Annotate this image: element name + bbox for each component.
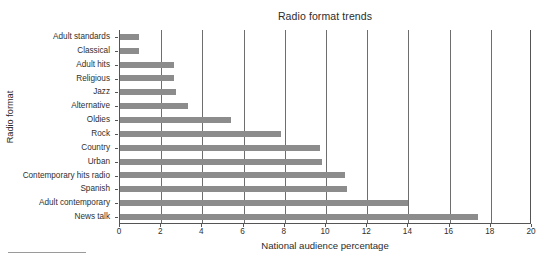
y-tick-mark bbox=[115, 189, 118, 190]
bar-row bbox=[120, 141, 530, 155]
y-tick-label: Classical bbox=[77, 44, 110, 58]
bar-row bbox=[120, 113, 530, 127]
bar bbox=[120, 172, 345, 178]
x-tick-label: 0 bbox=[117, 227, 122, 236]
y-tick-label: Adult hits bbox=[76, 58, 110, 72]
bar-row bbox=[120, 58, 530, 72]
bar-row bbox=[120, 85, 530, 99]
bar-row bbox=[120, 44, 530, 58]
y-tick-mark bbox=[115, 134, 118, 135]
bar-row bbox=[120, 72, 530, 86]
bar bbox=[120, 48, 139, 54]
chart-figure: Radio format trends Radio format Adult s… bbox=[0, 0, 552, 261]
y-tick-mark bbox=[115, 162, 118, 163]
y-tick-mark bbox=[115, 120, 118, 121]
bar-series bbox=[120, 30, 530, 223]
bar bbox=[120, 214, 478, 220]
x-tick-label: 8 bbox=[282, 227, 287, 236]
bar-row bbox=[120, 196, 530, 210]
y-axis-tick-labels: Adult standardsClassicalAdult hitsReligi… bbox=[0, 30, 115, 224]
bar-row bbox=[120, 99, 530, 113]
y-tick-label: Rock bbox=[91, 127, 110, 141]
bar-row bbox=[120, 30, 530, 44]
y-tick-label: Jazz bbox=[93, 85, 110, 99]
x-axis-tick-labels: 02468101214161820 bbox=[119, 224, 531, 240]
bar-row bbox=[120, 210, 530, 224]
y-tick-label: Adult standards bbox=[53, 30, 110, 44]
x-tick-label: 16 bbox=[444, 227, 453, 236]
y-tick-mark bbox=[115, 203, 118, 204]
x-tick-label: 10 bbox=[320, 227, 329, 236]
x-tick-label: 2 bbox=[158, 227, 163, 236]
bar bbox=[120, 159, 322, 165]
bar bbox=[120, 200, 408, 206]
y-tick-label: Alternative bbox=[71, 99, 110, 113]
bar bbox=[120, 89, 176, 95]
bar-row bbox=[120, 169, 530, 183]
y-tick-label: Oldies bbox=[87, 113, 110, 127]
chart-title: Radio format trends bbox=[119, 10, 531, 22]
x-tick-label: 14 bbox=[403, 227, 412, 236]
x-tick-label: 18 bbox=[485, 227, 494, 236]
bar bbox=[120, 103, 188, 109]
x-axis-label: National audience percentage bbox=[119, 240, 531, 251]
y-tick-label: Adult contemporary bbox=[39, 196, 110, 210]
bar bbox=[120, 117, 231, 123]
y-tick-label: Spanish bbox=[80, 182, 110, 196]
plot-area bbox=[119, 30, 531, 224]
bar bbox=[120, 145, 320, 151]
x-tick-label: 6 bbox=[240, 227, 245, 236]
y-tick-mark bbox=[115, 217, 118, 218]
y-tick-mark bbox=[115, 51, 118, 52]
y-tick-mark bbox=[115, 92, 118, 93]
bar bbox=[120, 75, 174, 81]
x-tick-label: 20 bbox=[526, 227, 535, 236]
y-tick-mark bbox=[115, 106, 118, 107]
y-tick-label: Contemporary hits radio bbox=[23, 169, 110, 183]
x-tick-label: 4 bbox=[199, 227, 204, 236]
bar bbox=[120, 62, 174, 68]
y-tick-mark bbox=[115, 176, 118, 177]
bottom-divider bbox=[8, 252, 86, 253]
y-tick-mark bbox=[115, 65, 118, 66]
y-tick-label: Country bbox=[81, 141, 110, 155]
bar bbox=[120, 131, 281, 137]
y-tick-label: News talk bbox=[75, 210, 111, 224]
bar bbox=[120, 34, 139, 40]
y-tick-mark bbox=[115, 37, 118, 38]
x-tick-label: 12 bbox=[362, 227, 371, 236]
y-tick-mark bbox=[115, 79, 118, 80]
bar-row bbox=[120, 182, 530, 196]
y-tick-label: Urban bbox=[88, 155, 110, 169]
bar bbox=[120, 186, 347, 192]
y-tick-label: Religious bbox=[76, 72, 110, 86]
bar-row bbox=[120, 127, 530, 141]
bar-row bbox=[120, 155, 530, 169]
y-tick-mark bbox=[115, 148, 118, 149]
